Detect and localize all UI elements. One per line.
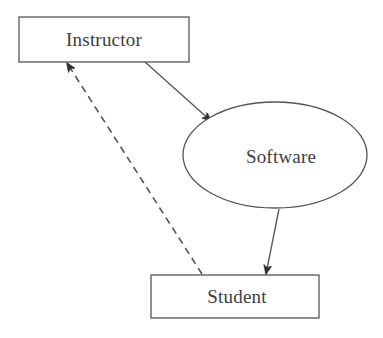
edge-software-to-student-line — [266, 209, 279, 274]
node-software[interactable]: Software — [183, 102, 367, 208]
diagram-canvas: Instructor Software Student — [0, 0, 383, 338]
node-software-label: Software — [246, 146, 316, 167]
node-instructor-label: Instructor — [66, 29, 142, 50]
node-instructor[interactable]: Instructor — [19, 17, 189, 62]
node-student[interactable]: Student — [151, 275, 319, 318]
edge-instructor-to-software-line — [145, 62, 211, 121]
node-student-label: Student — [207, 286, 267, 307]
edge-software-to-student — [266, 209, 279, 274]
diagram-svg: Instructor Software Student — [0, 0, 383, 338]
edge-instructor-to-software — [145, 62, 211, 121]
